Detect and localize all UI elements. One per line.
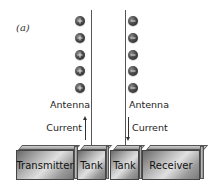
receiver-box: Receiver xyxy=(142,150,200,180)
positive-charge-icon xyxy=(75,66,85,76)
transmitter-box: Transmitter xyxy=(16,150,74,180)
left-current-label: Current xyxy=(46,122,82,133)
receiver-side xyxy=(200,146,204,179)
positive-charge-icon xyxy=(75,16,85,26)
right-antenna-label: Antenna xyxy=(129,99,169,110)
right-tank-label: Tank xyxy=(113,160,136,171)
positive-charge-icon xyxy=(75,83,85,93)
positive-charge-icon xyxy=(75,33,85,43)
current-down-arrow-icon xyxy=(128,117,129,137)
left-antenna-label: Antenna xyxy=(50,99,90,110)
right-current-label: Current xyxy=(132,122,168,133)
receiver-label: Receiver xyxy=(149,160,192,171)
right-tank-box: Tank xyxy=(110,150,139,180)
transmitter-label: Transmitter xyxy=(16,160,73,171)
negative-charge-icon xyxy=(128,66,138,76)
panel-label: (a) xyxy=(16,22,30,33)
left-tank-label: Tank xyxy=(80,160,103,171)
left-tank-side xyxy=(106,146,109,179)
negative-charge-icon xyxy=(128,16,138,26)
left-antenna-line xyxy=(91,10,92,158)
current-up-arrow-icon xyxy=(85,120,86,140)
left-tank-box: Tank xyxy=(77,150,106,180)
negative-charge-icon xyxy=(128,33,138,43)
negative-charge-icon xyxy=(128,83,138,93)
positive-charge-icon xyxy=(75,50,85,60)
negative-charge-icon xyxy=(128,50,138,60)
